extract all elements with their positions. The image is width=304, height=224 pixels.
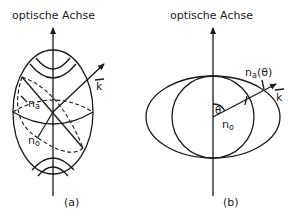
- panel-a: optische Achse k na no (a): [12, 9, 104, 209]
- panel-b-na-theta-label: na(θ): [245, 66, 272, 80]
- panel-a-tick: [21, 96, 27, 102]
- panel-b-k-label: k: [276, 91, 283, 104]
- panel-a-k-label: k: [96, 80, 103, 93]
- panel-b-axis-label: optische Achse: [170, 9, 253, 22]
- birefringence-index-ellipsoid-figure: optische Achse k na no (a): [0, 0, 304, 224]
- panel-b-tick-extraordinary: [262, 80, 264, 89]
- panel-b-no-label: no: [222, 118, 234, 132]
- panel-a-na-label: na: [28, 97, 40, 111]
- panel-b: optische Achse k θ na(θ) no (b): [146, 9, 284, 209]
- panel-b-theta-label: θ: [215, 105, 221, 116]
- panel-b-k-overbar: [275, 89, 284, 90]
- panel-b-k-vector-arrow: [213, 84, 276, 117]
- panel-a-axis-label: optische Achse: [12, 9, 95, 22]
- panel-a-caption: (a): [64, 196, 79, 209]
- panel-b-caption: (b): [223, 196, 239, 209]
